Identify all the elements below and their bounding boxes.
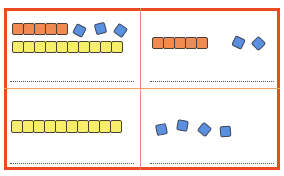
yellow-cube	[110, 120, 122, 133]
blue-unit-cube	[176, 119, 189, 132]
answer-line[interactable]	[10, 163, 134, 164]
yellow-cube-row	[12, 41, 122, 53]
yellow-cube-row	[11, 120, 121, 133]
orange-cube	[196, 37, 208, 49]
answer-line[interactable]	[10, 81, 134, 82]
blue-unit-cube	[155, 123, 168, 136]
orange-cube-row	[12, 23, 67, 35]
vertical-divider	[140, 8, 141, 170]
blue-unit-cube	[220, 126, 232, 138]
counting-worksheet	[0, 0, 284, 176]
orange-cube	[56, 23, 68, 35]
answer-line[interactable]	[150, 163, 274, 164]
orange-cube-row	[152, 37, 207, 49]
answer-line[interactable]	[150, 81, 274, 82]
horizontal-divider	[4, 88, 280, 89]
yellow-cube	[111, 41, 123, 53]
